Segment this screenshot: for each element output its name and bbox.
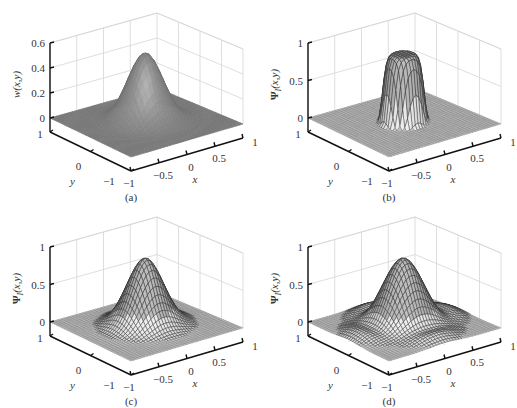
z-tick-label: 0 bbox=[40, 316, 46, 328]
y-tick-label: −1 bbox=[103, 379, 115, 391]
x-tick-label: 1 bbox=[510, 136, 516, 148]
y-tick-label: 1 bbox=[295, 332, 301, 344]
surface bbox=[308, 258, 501, 361]
subplot-c: 00.5110−1−1−0.500.51yxΨI(x,y)(c) bbox=[0, 204, 258, 408]
z-tick-label: 1 bbox=[298, 241, 304, 253]
z-tick-label: 0.5 bbox=[289, 279, 303, 291]
surface bbox=[308, 51, 501, 157]
z-tick-label: 0 bbox=[40, 112, 46, 124]
x-tick-label: −0.5 bbox=[411, 169, 431, 181]
z-axis-label: ΨI(x,y) bbox=[268, 69, 283, 100]
x-tick-label: −1 bbox=[123, 381, 135, 393]
x-tick-label: 0 bbox=[188, 365, 194, 377]
y-tick-label: −1 bbox=[361, 175, 373, 187]
x-tick-label: 1 bbox=[510, 340, 516, 352]
x-tick-label: −1 bbox=[381, 381, 393, 393]
x-tick-label: 0.5 bbox=[470, 152, 484, 164]
x-axis-label: x bbox=[450, 377, 456, 389]
z-axis-label: w(x,y) bbox=[10, 71, 23, 99]
subplot-caption: (b) bbox=[383, 191, 396, 204]
surface-plot-c: 00.5110−1−1−0.500.51yxΨI(x,y)(c) bbox=[0, 204, 258, 408]
x-tick-label: −0.5 bbox=[153, 169, 173, 181]
y-tick-label: 0 bbox=[334, 160, 340, 172]
x-axis-label: x bbox=[192, 173, 198, 185]
y-axis-label: y bbox=[327, 175, 333, 187]
x-tick-label: −1 bbox=[381, 177, 393, 189]
subplot-b: 00.5110−1−1−0.500.51yxΨI(x,y)(b) bbox=[258, 0, 516, 204]
surface bbox=[50, 53, 243, 157]
y-tick-label: 0 bbox=[76, 160, 82, 172]
x-tick-label: 0.5 bbox=[470, 356, 484, 368]
x-tick-label: 0 bbox=[446, 161, 452, 173]
y-tick-label: −1 bbox=[361, 379, 373, 391]
surface-plot-a: 00.20.40.610−1−1−0.500.51yxw(x,y)(a) bbox=[0, 0, 258, 204]
y-tick-label: 0 bbox=[76, 364, 82, 376]
z-tick-label: 0.5 bbox=[289, 75, 303, 87]
z-tick-label: 0.2 bbox=[31, 87, 45, 99]
x-tick-label: 0.5 bbox=[212, 356, 226, 368]
y-tick-label: 1 bbox=[37, 332, 43, 344]
x-tick-label: 1 bbox=[252, 136, 258, 148]
surface bbox=[50, 258, 243, 361]
subplot-caption: (a) bbox=[125, 191, 138, 204]
x-tick-label: −0.5 bbox=[153, 373, 173, 385]
x-tick-label: 0.5 bbox=[212, 152, 226, 164]
z-tick-label: 1 bbox=[40, 241, 46, 253]
z-axis-label: ΨI(x,y) bbox=[268, 273, 283, 304]
x-tick-label: 1 bbox=[252, 340, 258, 352]
surface-plot-d: 00.5110−1−1−0.500.51yxΨI(x,y)(d) bbox=[258, 204, 516, 408]
z-tick-label: 1 bbox=[298, 37, 304, 49]
subplot-a: 00.20.40.610−1−1−0.500.51yxw(x,y)(a) bbox=[0, 0, 258, 204]
z-tick-label: 0.6 bbox=[31, 37, 45, 49]
x-axis-label: x bbox=[450, 173, 456, 185]
x-tick-label: −1 bbox=[123, 177, 135, 189]
surface-plot-b: 00.5110−1−1−0.500.51yxΨI(x,y)(b) bbox=[258, 0, 516, 204]
y-tick-label: 1 bbox=[295, 128, 301, 140]
y-tick-label: −1 bbox=[103, 175, 115, 187]
y-tick-label: 0 bbox=[334, 364, 340, 376]
y-axis-label: y bbox=[69, 379, 75, 391]
y-axis-label: y bbox=[327, 379, 333, 391]
z-axis-label: ΨI(x,y) bbox=[10, 273, 25, 304]
subplot-caption: (d) bbox=[383, 395, 396, 408]
x-tick-label: 0 bbox=[188, 161, 194, 173]
z-tick-label: 0.4 bbox=[31, 62, 45, 74]
subplot-d: 00.5110−1−1−0.500.51yxΨI(x,y)(d) bbox=[258, 204, 516, 408]
z-tick-label: 0.5 bbox=[31, 279, 45, 291]
y-axis-label: y bbox=[69, 175, 75, 187]
z-tick-label: 0 bbox=[298, 112, 304, 124]
subplot-caption: (c) bbox=[125, 395, 138, 408]
z-tick-label: 0 bbox=[298, 316, 304, 328]
x-tick-label: −0.5 bbox=[411, 373, 431, 385]
x-axis-label: x bbox=[192, 377, 198, 389]
y-tick-label: 1 bbox=[37, 128, 43, 140]
x-tick-label: 0 bbox=[446, 365, 452, 377]
